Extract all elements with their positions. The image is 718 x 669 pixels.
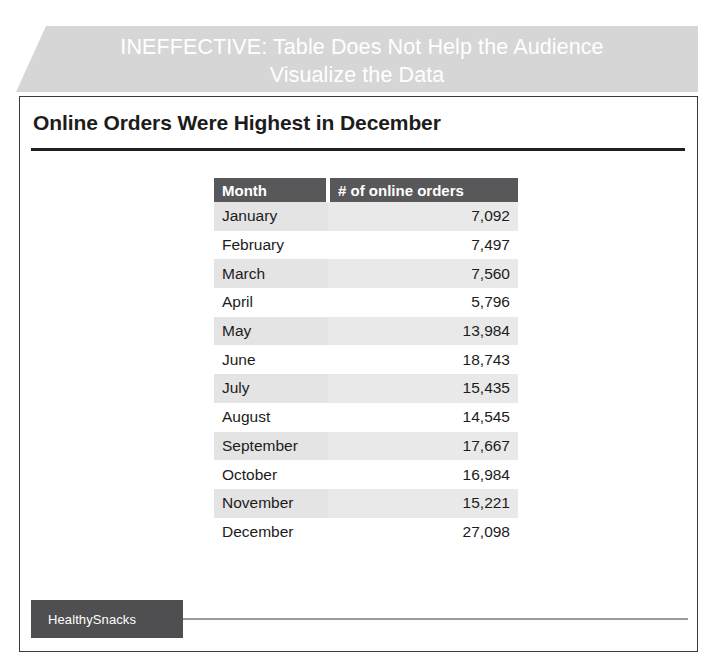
online-orders-table: Month # of online orders January 7,092 F… xyxy=(214,178,518,546)
table-header-row: Month # of online orders xyxy=(214,178,518,202)
cell-orders: 7,092 xyxy=(328,202,518,231)
table-row: January 7,092 xyxy=(214,202,518,231)
table-row: February 7,497 xyxy=(214,231,518,260)
cell-month: June xyxy=(214,345,328,374)
cell-month: April xyxy=(214,288,328,317)
brand-logo: HealthySnacks xyxy=(31,600,183,638)
table-row: October 16,984 xyxy=(214,460,518,489)
table-row: May 13,984 xyxy=(214,317,518,346)
cell-month: November xyxy=(214,489,328,518)
table-row: December 27,098 xyxy=(214,518,518,547)
table-body: January 7,092 February 7,497 March 7,560… xyxy=(214,202,518,546)
table-row: June 18,743 xyxy=(214,345,518,374)
cell-orders: 18,743 xyxy=(328,345,518,374)
brand-logo-label: HealthySnacks xyxy=(31,612,136,627)
table-row: November 15,221 xyxy=(214,489,518,518)
table-row: July 15,435 xyxy=(214,374,518,403)
annotation-banner: INEFFECTIVE: Table Does Not Help the Aud… xyxy=(16,26,698,92)
cell-orders: 13,984 xyxy=(328,317,518,346)
title-divider xyxy=(31,148,685,151)
cell-month: July xyxy=(214,374,328,403)
cell-month: March xyxy=(214,259,328,288)
cell-month: December xyxy=(214,518,328,547)
cell-orders: 15,221 xyxy=(328,489,518,518)
cell-orders: 27,098 xyxy=(328,518,518,547)
cell-month: September xyxy=(214,432,328,461)
page-title: Online Orders Were Highest in December xyxy=(33,111,441,135)
table-header: Month # of online orders xyxy=(214,178,518,202)
annotation-banner-line-2: Visualize the Data xyxy=(270,61,445,89)
cell-month: February xyxy=(214,231,328,260)
cell-month: October xyxy=(214,460,328,489)
cell-month: August xyxy=(214,403,328,432)
cell-orders: 7,560 xyxy=(328,259,518,288)
table-row: September 17,667 xyxy=(214,432,518,461)
table-row: August 14,545 xyxy=(214,403,518,432)
cell-orders: 15,435 xyxy=(328,374,518,403)
cell-orders: 7,497 xyxy=(328,231,518,260)
cell-orders: 16,984 xyxy=(328,460,518,489)
table-row: April 5,796 xyxy=(214,288,518,317)
cell-month: May xyxy=(214,317,328,346)
annotation-banner-line-1: INEFFECTIVE: Table Does Not Help the Aud… xyxy=(120,33,603,61)
footer-divider xyxy=(140,618,688,620)
slide-frame: Online Orders Were Highest in December M… xyxy=(19,96,698,652)
cell-orders: 5,796 xyxy=(328,288,518,317)
cell-month: January xyxy=(214,202,328,231)
cell-orders: 17,667 xyxy=(328,432,518,461)
cell-orders: 14,545 xyxy=(328,403,518,432)
column-header-orders: # of online orders xyxy=(328,178,518,202)
table-row: March 7,560 xyxy=(214,259,518,288)
column-header-month: Month xyxy=(214,178,328,202)
